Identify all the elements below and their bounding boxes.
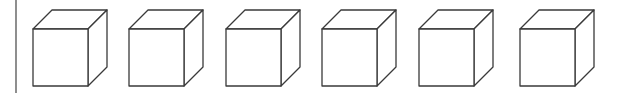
cube-diagram <box>0 0 623 93</box>
cube-4 <box>322 10 396 86</box>
cube-row <box>33 10 594 86</box>
cube-front-face <box>520 29 575 86</box>
cube-5 <box>419 10 493 86</box>
cube-6 <box>520 10 594 86</box>
cube-front-face <box>226 29 281 86</box>
cube-1 <box>33 10 107 86</box>
cube-front-face <box>33 29 88 86</box>
cube-3 <box>226 10 300 86</box>
cube-front-face <box>419 29 474 86</box>
cube-front-face <box>129 29 184 86</box>
cube-front-face <box>322 29 377 86</box>
cube-2 <box>129 10 203 86</box>
